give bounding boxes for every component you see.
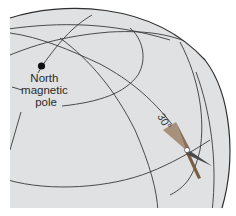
globe-surface bbox=[10, 8, 230, 208]
pole-label-line1: North bbox=[30, 72, 58, 84]
needle-pivot bbox=[184, 147, 189, 152]
north-magnetic-pole-dot bbox=[38, 62, 45, 69]
globe-svg: North magnetic pole 30° bbox=[0, 0, 236, 216]
pole-label-line2: magnetic bbox=[21, 84, 68, 96]
pole-label-line3: pole bbox=[35, 96, 57, 108]
globe-diagram: North magnetic pole 30° bbox=[0, 0, 236, 216]
